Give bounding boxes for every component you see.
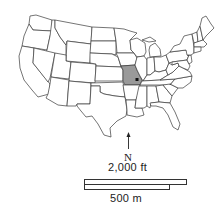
location-marker <box>136 78 139 81</box>
state-wyoming <box>66 41 91 63</box>
state-north-dakota <box>91 27 116 41</box>
state-florida <box>150 102 180 130</box>
north-arrow-icon <box>127 132 131 149</box>
scale-bar-meters <box>84 184 170 190</box>
state-kansas <box>95 66 123 81</box>
state-new-mexico <box>67 81 91 106</box>
states <box>19 15 214 137</box>
scale-label-feet: 2,000 ft <box>108 161 147 173</box>
state-arizona <box>46 77 69 106</box>
scale-label-meters: 500 m <box>110 192 142 204</box>
state-connecticut <box>194 47 201 53</box>
state-colorado <box>69 62 96 83</box>
state-maine <box>200 16 214 40</box>
